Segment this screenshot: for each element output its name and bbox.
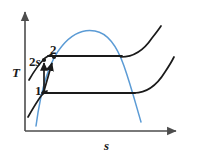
upper-isobar-right-curve	[121, 26, 161, 57]
lower-isobar-right-curve	[134, 57, 174, 93]
process-arrows-group	[44, 63, 52, 91]
temperature-axis-label: T	[12, 66, 20, 79]
ts-diagram-canvas	[0, 0, 197, 162]
state-point-2-label: 2	[50, 43, 57, 56]
state-point-1-label: 1	[35, 84, 42, 97]
state-point-1-dot	[42, 90, 46, 94]
state-point-2s-suffix: s	[36, 54, 41, 69]
state-point-2s-label: 2s	[29, 55, 41, 68]
actual-compression-arrow	[44, 63, 52, 91]
state-point-2s-dot	[42, 58, 46, 62]
entropy-axis-label: s	[104, 139, 109, 152]
ts-diagram-figure: T s 1 2 2s	[0, 0, 197, 162]
